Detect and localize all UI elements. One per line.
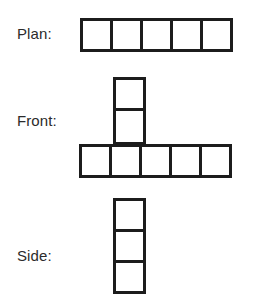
front-view-base [79, 144, 232, 178]
plan-view-label: Plan: [17, 26, 52, 41]
side-cell [113, 260, 146, 294]
plan-cell [110, 18, 143, 52]
front-base-cell [169, 144, 202, 178]
front-view-stem [113, 77, 146, 145]
plan-cell [200, 18, 233, 52]
front-base-cell [109, 144, 142, 178]
side-view-shape [113, 198, 146, 294]
front-stem-cell [113, 77, 146, 111]
plan-view-shape [80, 18, 233, 52]
front-stem-cell [113, 108, 146, 145]
side-cell [113, 198, 146, 232]
front-base-cell [199, 144, 232, 178]
plan-cell [140, 18, 173, 52]
plan-cell [80, 18, 113, 52]
side-cell [113, 229, 146, 263]
front-base-cell [139, 144, 172, 178]
orthographic-views-diagram: Plan: Front: Side: [0, 0, 259, 302]
front-base-cell [79, 144, 112, 178]
plan-cell [170, 18, 203, 52]
front-view-label: Front: [17, 113, 57, 128]
side-view-label: Side: [17, 248, 52, 263]
